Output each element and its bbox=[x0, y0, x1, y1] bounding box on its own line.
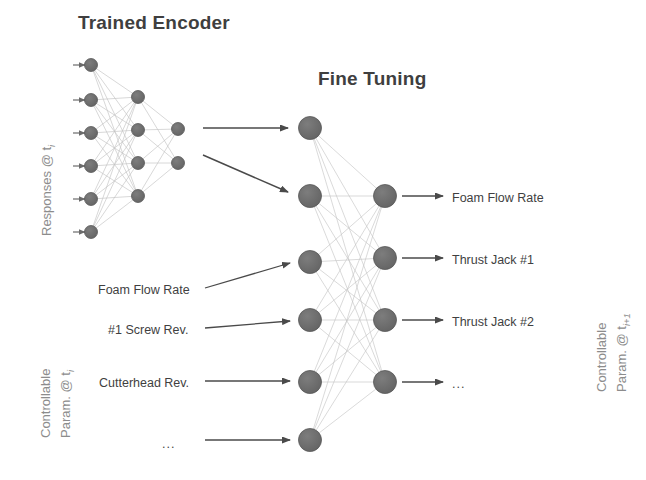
finetune-input-node bbox=[299, 251, 322, 274]
finetune-output-node bbox=[374, 371, 397, 394]
encoder-input-markers bbox=[73, 65, 85, 232]
encoder-hidden-node bbox=[132, 190, 145, 203]
axis-label-controllable-param-right-line2-wrap: Param. @ ti+1 bbox=[612, 313, 634, 392]
input-feature-arrow-0 bbox=[205, 263, 290, 288]
encoder-hidden-node bbox=[132, 124, 145, 137]
encoder-connections bbox=[91, 65, 178, 232]
axis-label-controllable-param-left-line2: Param. @ t bbox=[58, 372, 73, 438]
output-feature-arrows bbox=[402, 196, 443, 382]
network-connection bbox=[310, 196, 385, 262]
network-connection bbox=[310, 196, 385, 258]
axis-label-controllable-param-left-line2-wrap: Param. @ ti bbox=[56, 369, 78, 438]
output-feature-label-0: Foam Flow Rate bbox=[452, 191, 544, 205]
finetune-nodes bbox=[299, 117, 397, 452]
axis-label-controllable-param-left: Controllable Param. @ ti bbox=[36, 369, 77, 438]
page-title-fine-tuning: Fine Tuning bbox=[318, 68, 426, 90]
finetune-input-node bbox=[299, 117, 322, 140]
encoder-input-node bbox=[85, 226, 98, 239]
finetune-output-node bbox=[374, 185, 397, 208]
axis-label-controllable-param-left-line1: Controllable bbox=[36, 369, 56, 438]
input-feature-label-0: Foam Flow Rate bbox=[98, 283, 190, 297]
axis-label-responses-subscript: i bbox=[47, 145, 57, 147]
finetune-output-node bbox=[374, 309, 397, 332]
axis-label-controllable-param-right-subscript: i+1 bbox=[621, 313, 631, 326]
network-connection bbox=[310, 258, 385, 440]
output-feature-label-2: Thrust Jack #2 bbox=[452, 315, 534, 329]
output-feature-label-3: ... bbox=[452, 377, 465, 391]
encoder-input-node bbox=[85, 127, 98, 140]
transfer-arrows bbox=[203, 128, 288, 192]
network-connection bbox=[91, 97, 138, 166]
axis-label-responses-text: Responses @ t bbox=[39, 147, 54, 236]
encoder-to-finetune-arrow-2 bbox=[203, 155, 288, 192]
network-connection bbox=[91, 163, 138, 232]
finetune-input-node bbox=[299, 185, 322, 208]
input-feature-arrow-1 bbox=[205, 321, 290, 328]
network-connection bbox=[310, 382, 385, 440]
input-feature-label-2: Cutterhead Rev. bbox=[99, 376, 189, 390]
encoder-hidden-node bbox=[132, 91, 145, 104]
network-connection bbox=[138, 163, 178, 196]
encoder-input-node bbox=[85, 94, 98, 107]
encoder-output-node bbox=[172, 123, 185, 136]
axis-label-controllable-param-right-line2: Param. @ t bbox=[614, 326, 629, 392]
output-feature-label-1: Thrust Jack #1 bbox=[452, 253, 534, 267]
axis-label-controllable-param-right: Controllable Param. @ ti+1 bbox=[592, 313, 633, 392]
encoder-hidden-node bbox=[132, 157, 145, 170]
network-connection bbox=[310, 128, 385, 196]
encoder-output-node bbox=[172, 157, 185, 170]
encoder-input-node bbox=[85, 59, 98, 72]
encoder-input-node bbox=[85, 160, 98, 173]
page-title-trained-encoder: Trained Encoder bbox=[78, 12, 230, 34]
network-connection bbox=[91, 65, 138, 97]
finetune-connections bbox=[310, 128, 385, 440]
input-feature-label-1: #1 Screw Rev. bbox=[108, 323, 188, 337]
finetune-output-node bbox=[374, 247, 397, 270]
network-connection bbox=[91, 196, 138, 232]
diagram-canvas: Trained Encoder Fine Tuning Responses @ … bbox=[0, 0, 646, 480]
axis-label-controllable-param-left-subscript: i bbox=[65, 370, 75, 372]
axis-label-responses: Responses @ ti bbox=[38, 145, 58, 236]
finetune-input-node bbox=[299, 371, 322, 394]
network-connection bbox=[138, 97, 178, 129]
finetune-input-node bbox=[299, 309, 322, 332]
input-feature-arrows bbox=[205, 263, 290, 440]
input-feature-label-3: ... bbox=[162, 437, 175, 451]
encoder-input-node bbox=[85, 193, 98, 206]
axis-label-controllable-param-right-line1: Controllable bbox=[592, 313, 612, 392]
network-connection bbox=[91, 97, 138, 232]
finetune-input-node bbox=[299, 429, 322, 452]
